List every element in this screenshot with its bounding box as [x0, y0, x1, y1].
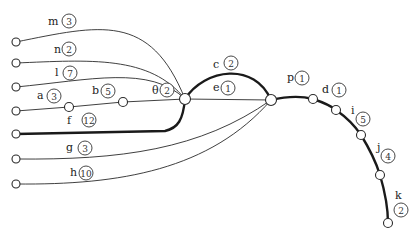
edge-label-i: i [351, 104, 355, 117]
edge-g [16, 100, 271, 159]
weight-value-c: 2 [228, 59, 234, 69]
edge-label-theta: θ [152, 84, 159, 97]
leaf-node-m [12, 38, 20, 46]
weight-value-theta: 2 [164, 86, 170, 96]
node-jk [376, 171, 385, 180]
edge-label-m: m [48, 15, 59, 28]
weight-value-d: 1 [336, 86, 342, 96]
weight-value-j: 4 [385, 152, 391, 162]
edge-label-f: f [67, 114, 72, 127]
leaf-node-n [12, 59, 20, 67]
edge-label-j: j [375, 141, 380, 154]
weight-value-k: 2 [398, 206, 404, 216]
edge-label-e: e [213, 81, 220, 94]
node-pd [309, 95, 318, 104]
edge-label-d: d [322, 83, 329, 96]
edge-label-c: c [213, 58, 219, 71]
weight-value-e: 1 [225, 84, 231, 94]
edge-e [185, 99, 271, 100]
weight-value-f: 12 [83, 116, 94, 126]
leaf-node-k [384, 219, 393, 228]
edges-layer [16, 30, 388, 223]
weight-value-i: 5 [360, 115, 366, 125]
edge-a [16, 107, 69, 111]
weight-value-p: 1 [299, 74, 305, 84]
edge-label-n: n [54, 43, 61, 56]
leaf-node-g [12, 155, 20, 163]
edge-label-a: a [37, 89, 44, 102]
weight-value-a: 3 [51, 92, 57, 102]
junction-node-left [180, 94, 191, 105]
network-diagram: m3n2l7a3b5θ2f12g3h10c2e1p1d1i5j4k2 [0, 0, 419, 241]
node-ab [65, 103, 74, 112]
leaf-node-a [12, 107, 20, 115]
edge-label-b: b [92, 84, 99, 97]
weight-value-n: 2 [66, 45, 72, 55]
leaf-node-f [12, 130, 20, 138]
node-b-theta [119, 98, 128, 107]
weight-value-m: 3 [66, 17, 72, 27]
edge-label-p: p [287, 71, 294, 84]
junction-node-right [266, 95, 277, 106]
edge-label-g: g [66, 141, 73, 154]
weight-value-l: 7 [67, 69, 73, 79]
node-ij [357, 131, 366, 140]
edge-k [380, 175, 388, 223]
edge-b [69, 102, 123, 107]
edge-label-k: k [395, 189, 402, 202]
leaf-node-l [12, 83, 20, 91]
weight-value-h: 10 [80, 169, 92, 179]
labels-layer: m3n2l7a3b5θ2f12g3h10c2e1p1d1i5j4k2 [37, 14, 408, 217]
edge-label-l: l [55, 66, 59, 79]
edge-theta [123, 99, 185, 102]
weight-value-g: 3 [82, 144, 88, 154]
leaf-node-h [12, 180, 20, 188]
edge-p [271, 97, 313, 100]
node-di [332, 106, 341, 115]
edge-h [16, 100, 271, 184]
edge-label-h: h [70, 166, 77, 179]
weight-value-b: 5 [105, 87, 111, 97]
